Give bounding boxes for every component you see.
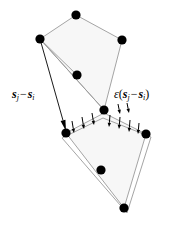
displacement-label: sj−si [12,88,35,100]
strain-label: ε(sj−si) [114,88,149,100]
displacement-minus: − [19,87,28,101]
strain-arrow-4-shaft [119,117,120,125]
vertex-upper-interior [72,70,81,79]
strain-arrow-8-shaft [127,103,128,109]
strain-arrow-8-head [127,109,130,113]
strain-arrow-1-shaft [82,117,83,125]
strain-arrow-0-shaft [72,121,73,129]
strain-arrow-6-shaft [138,123,139,130]
strain-arrow-7-head [118,110,121,114]
strain-sub-j: j [127,93,129,102]
displacement-s-j: s [12,87,17,101]
lower-polygon-inner [66,113,146,208]
strain-close-paren: ) [145,87,149,101]
diagram-canvas [0,0,187,235]
vertex-lower-interior [96,165,105,174]
displacement-sub-j: j [17,93,19,102]
strain-diagram-figure: sj−si ε(sj−si) [0,0,187,235]
vertex-upper-left [35,34,44,43]
vertex-upper-top [71,10,80,19]
vertex-upper-right [117,35,126,44]
vertex-lower-left [61,128,70,137]
shapes-layer [40,15,151,213]
displacement-sub-i: i [32,93,34,102]
strain-sub-i: i [143,93,145,102]
strain-arrow-5-shaft [129,120,130,128]
vertex-lower-right [141,129,150,138]
upper-polygon [40,15,122,110]
strain-arrow-3-shaft [109,115,110,123]
vertex-shared-bottom [99,105,108,114]
strain-arrow-7-shaft [118,104,119,110]
vertex-lower-bottom [119,203,128,212]
